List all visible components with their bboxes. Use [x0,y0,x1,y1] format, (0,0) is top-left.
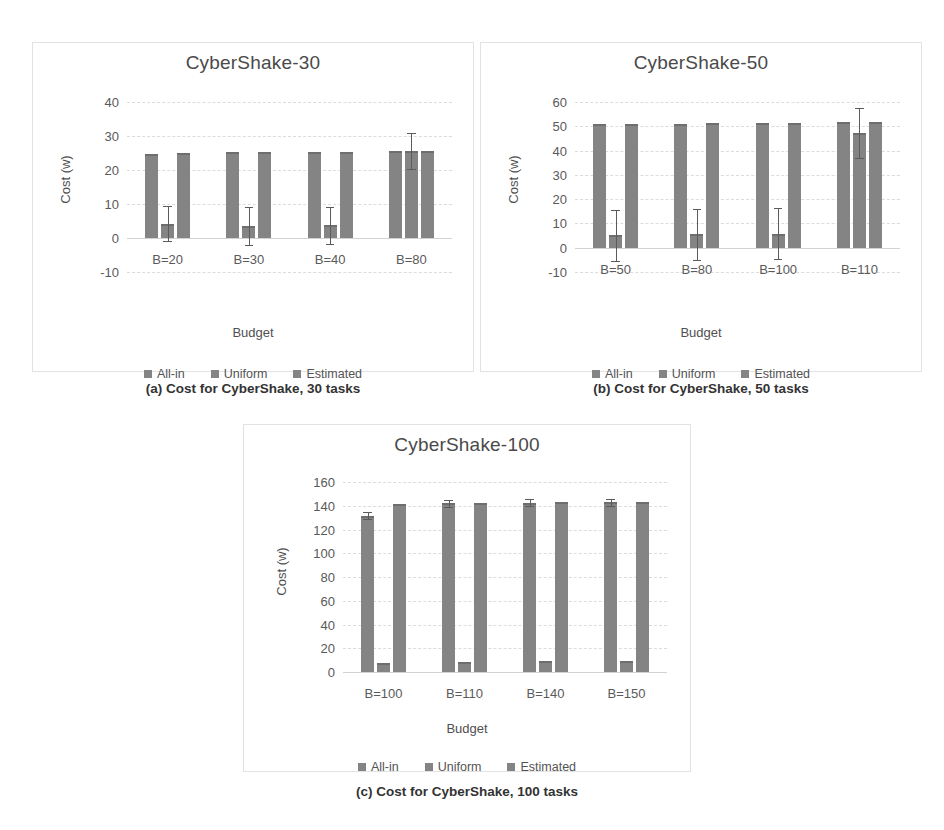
plot-area: 160140120100806040200B=100B=110B=140B=15… [343,482,667,672]
bar [377,663,390,673]
bar [674,124,687,248]
x-axis-label: Budget [480,325,922,340]
y-axis-tick-label: 60 [553,95,567,110]
bar [523,503,536,672]
legend-swatch-icon [144,370,152,378]
y-axis-tick-label: -10 [100,265,119,280]
y-axis-label: Cost (w) [506,140,521,220]
y-axis-tick-label: 10 [105,197,119,212]
legend-swatch-icon [741,370,749,378]
bar [458,662,471,672]
y-axis-label: Cost (w) [274,532,289,612]
bar [226,152,239,238]
chart-title: CyberShake-30 [32,52,474,74]
error-bar-cap [444,507,452,508]
error-bar-cap [245,245,253,246]
error-bar-cap [163,241,171,242]
error-bar [449,500,450,507]
error-bar [611,499,612,506]
bar [593,124,606,247]
legend-swatch-icon [507,763,515,771]
error-bar [530,499,531,506]
error-bar-cap [855,108,863,109]
bar [788,123,801,248]
chart-panel-cybershake-50: CyberShake-50 Cost (w) 6050403020100-10B… [480,42,922,372]
bar-group [389,102,434,272]
subfigure-caption-b: (b) Cost for CyberShake, 50 tasks [480,381,922,396]
legend-item: Estimated [741,367,810,381]
error-bar-cap [855,158,863,159]
x-axis-tick-label: B=40 [290,252,371,267]
bar-group [226,102,271,272]
legend-item: All-in [358,760,399,774]
legend-label: Estimated [754,367,810,381]
figure-root: CyberShake-30 Cost (w) 403020100-10B=20B… [0,0,944,830]
x-axis-tick-label: B=20 [127,252,208,267]
bar-group [674,102,719,272]
legend: All-inUniformEstimated [243,760,691,774]
bar [625,124,638,248]
y-axis-tick-label: 30 [553,167,567,182]
y-axis-tick-label: 50 [553,119,567,134]
plot-area: 6050403020100-10B=50B=80B=100B=110 [575,102,900,272]
x-axis-tick-label: B=100 [738,262,819,277]
y-axis-tick-label: 40 [105,95,119,110]
bar [442,503,455,672]
plot-area: 403020100-10B=20B=30B=40B=80 [127,102,452,272]
chart-panel-cybershake-30: CyberShake-30 Cost (w) 403020100-10B=20B… [32,42,474,372]
bar [837,122,850,247]
bar [389,151,402,238]
bar [756,123,769,247]
bar [636,502,649,672]
bar [620,661,633,672]
bar [361,516,374,672]
bar-group [593,102,638,272]
legend-item: All-in [592,367,633,381]
y-axis-tick-label: -10 [548,265,567,280]
legend-item: All-in [144,367,185,381]
error-bar-cap [606,506,614,507]
chart-panel-cybershake-100: CyberShake-100 Cost (w) 1601401201008060… [243,424,691,772]
bar [177,153,190,238]
bar [308,152,321,238]
y-axis-tick-label: 0 [112,231,119,246]
bar [555,502,568,672]
y-axis-tick-label: 20 [105,163,119,178]
error-bar-cap [407,169,415,170]
bar [421,151,434,238]
x-axis-tick-label: B=80 [656,262,737,277]
x-axis-tick-label: B=150 [586,686,667,701]
error-bar-cap [326,207,334,208]
y-axis-tick-label: 80 [321,570,335,585]
legend-item: Estimated [507,760,576,774]
error-bar-cap [363,519,371,520]
x-axis-tick-label: B=140 [505,686,586,701]
y-axis-tick-label: 60 [321,593,335,608]
legend-swatch-icon [592,370,600,378]
bar [393,504,406,672]
error-bar-cap [326,244,334,245]
chart-title: CyberShake-50 [480,52,922,74]
bar [258,152,271,238]
legend-label: Estimated [306,367,362,381]
error-bar [368,512,369,519]
x-axis-tick-label: B=50 [575,262,656,277]
y-axis-tick-label: 100 [313,546,335,561]
gridline [343,672,667,673]
bar-group [756,102,801,272]
legend-swatch-icon [211,370,219,378]
legend-swatch-icon [659,370,667,378]
y-axis-tick-label: 30 [105,129,119,144]
error-bar [330,207,331,244]
legend-label: Estimated [520,760,576,774]
legend-swatch-icon [293,370,301,378]
legend-item: Uniform [425,760,482,774]
x-axis-tick-label: B=110 [819,262,900,277]
y-axis-tick-label: 0 [560,240,567,255]
x-axis-tick-label: B=80 [371,252,452,267]
x-axis-tick-label: B=100 [343,686,424,701]
error-bar-cap [525,499,533,500]
bar-group [442,482,487,672]
bar [604,502,617,672]
y-axis-tick-label: 40 [553,143,567,158]
